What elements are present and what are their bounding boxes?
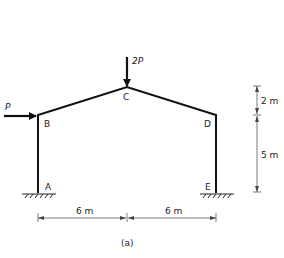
load-P-label: P [5, 102, 11, 112]
dimension-rise: 2 m [261, 96, 278, 106]
dimension-right-span: 6 m [165, 206, 182, 216]
node-label-E: E [205, 182, 211, 192]
dimension-left-span: 6 m [76, 206, 93, 216]
support-A-fixed-icon [22, 194, 56, 198]
node-label-D: D [204, 119, 211, 129]
vertical-dimension [253, 86, 261, 192]
node-label-B: B [44, 119, 50, 129]
load-2P-label: 2P [132, 56, 144, 66]
frame-members [38, 87, 216, 193]
frame-outline [38, 87, 216, 193]
horizontal-dimension [38, 213, 216, 222]
dimension-column-height: 5 m [261, 150, 278, 160]
node-label-A: A [45, 182, 52, 192]
support-E-fixed-icon [200, 194, 234, 198]
figure-caption: (a) [121, 238, 134, 248]
node-label-C: C [123, 92, 129, 102]
portal-frame-diagram: P 2P A B C D E 6 m 6 m 2 m 5 m (a) [0, 0, 284, 258]
